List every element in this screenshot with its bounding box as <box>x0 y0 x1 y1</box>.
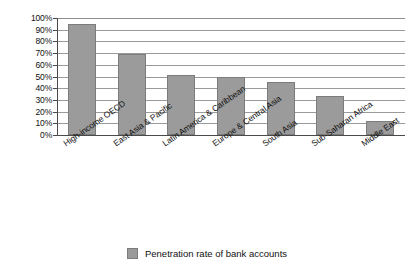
y-axis-tick-label: 60% <box>2 61 52 70</box>
y-axis-tick-mark <box>53 77 58 78</box>
y-axis-tick-label: 40% <box>2 84 52 93</box>
y-axis-tick-label: 10% <box>2 119 52 128</box>
y-axis-tick-label: 90% <box>2 26 52 35</box>
bar <box>68 24 96 135</box>
y-axis-tick-label: 20% <box>2 108 52 117</box>
y-axis-tick-labels: 0%10%20%30%40%50%60%70%80%90%100% <box>0 0 52 275</box>
x-axis-baseline <box>57 135 405 136</box>
y-axis-tick-mark <box>53 88 58 89</box>
y-axis-tick-mark <box>53 65 58 66</box>
y-axis-tick-mark <box>53 112 58 113</box>
y-axis-tick-mark <box>53 30 58 31</box>
y-axis-tick-label: 50% <box>2 73 52 82</box>
legend-item-label: Penetration rate of bank accounts <box>145 248 287 259</box>
chart-legend: Penetration rate of bank accounts <box>0 248 414 259</box>
y-axis-tick-label: 80% <box>2 37 52 46</box>
y-axis-tick-label: 100% <box>2 14 52 23</box>
y-axis-tick-label: 70% <box>2 49 52 58</box>
bar <box>118 54 146 135</box>
bar <box>316 96 344 135</box>
bar <box>366 121 394 135</box>
gridline <box>57 18 405 19</box>
y-axis-tick-mark <box>53 123 58 124</box>
gridline <box>57 53 405 54</box>
y-axis-tick-mark <box>53 41 58 42</box>
legend-color-swatch <box>127 248 138 259</box>
gridline <box>57 65 405 66</box>
y-axis-tick-mark <box>53 53 58 54</box>
bar <box>267 82 295 135</box>
bar <box>217 77 245 136</box>
y-axis-tick-mark <box>53 18 58 19</box>
gridline <box>57 41 405 42</box>
y-axis-tick-mark <box>53 135 58 136</box>
bar <box>167 75 195 135</box>
gridline <box>57 30 405 31</box>
y-axis-tick-label: 0% <box>2 131 52 140</box>
y-axis-tick-mark <box>53 100 58 101</box>
plot-area <box>57 18 405 135</box>
bar-chart-figure: 0%10%20%30%40%50%60%70%80%90%100% High-i… <box>0 0 414 275</box>
y-axis-tick-label: 30% <box>2 96 52 105</box>
